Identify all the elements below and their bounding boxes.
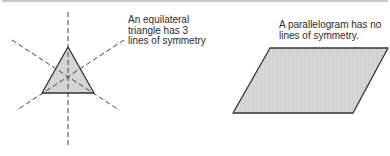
triangle-caption: An equilateral triangle has 3 lines of s… — [128, 15, 218, 47]
triangle-caption-line-3: lines of symmetry — [128, 36, 218, 47]
parallelogram — [233, 48, 388, 113]
parallelogram-caption: A parallelogram has no lines of symmetry… — [279, 20, 389, 41]
parallelogram-caption-line-1: A parallelogram has no — [279, 20, 389, 31]
parallelogram-caption-line-2: lines of symmetry. — [279, 31, 389, 42]
triangle-symmetry-lines — [12, 12, 124, 148]
clipped-text-fragments — [2, 0, 388, 2]
triangle-caption-line-1: An equilateral — [128, 15, 218, 26]
